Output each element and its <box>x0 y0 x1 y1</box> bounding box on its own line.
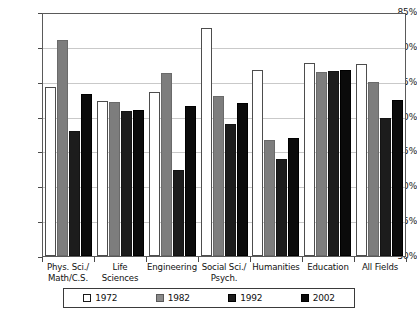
bar-group <box>250 14 302 256</box>
bar <box>97 101 108 256</box>
bar <box>276 159 287 256</box>
bar-group <box>198 14 250 256</box>
bar <box>328 71 339 256</box>
legend-label: 1982 <box>168 293 190 303</box>
x-axis-label-line2: Psych. <box>198 273 250 284</box>
x-axis-label-line1: All Fields <box>362 262 398 272</box>
legend-label: 2002 <box>313 293 335 303</box>
legend: 1972198219922002 <box>63 288 355 308</box>
bar <box>149 92 160 256</box>
legend-item[interactable]: 2002 <box>282 293 355 303</box>
bar <box>225 124 236 256</box>
bar <box>81 94 92 256</box>
bar-group <box>95 14 147 256</box>
bar-group <box>302 14 354 256</box>
x-axis-label-line2: Math/C.S. <box>42 273 94 284</box>
bar <box>213 96 224 256</box>
x-axis-label-line1: Education <box>307 262 348 272</box>
bar-group <box>146 14 198 256</box>
chart-root: 85%80%75%70%65%60%55%50% Phys. Sci./Math… <box>0 0 417 315</box>
bar <box>264 140 275 256</box>
bar <box>380 118 391 256</box>
bar-groups <box>43 14 405 256</box>
x-axis-label-line1: Humanities <box>252 262 299 272</box>
bar-group <box>43 14 95 256</box>
bar <box>252 70 263 256</box>
bar <box>288 138 299 257</box>
bar <box>201 28 212 256</box>
legend-label: 1972 <box>95 293 117 303</box>
bar-group <box>353 14 405 256</box>
bar <box>340 70 351 256</box>
legend-item[interactable]: 1982 <box>137 293 210 303</box>
legend-swatch-icon <box>156 294 164 302</box>
x-axis-label-line1: Engineering <box>147 262 197 272</box>
legend-item[interactable]: 1992 <box>209 293 282 303</box>
x-axis-label-line1: Social Sci./ <box>202 262 247 272</box>
x-axis-label: Education <box>302 262 354 284</box>
bar <box>368 82 379 256</box>
bar <box>121 111 132 256</box>
legend-swatch-icon <box>228 294 236 302</box>
x-axis-labels: Phys. Sci./Math/C.S.Life SciencesEnginee… <box>42 262 406 284</box>
bar <box>69 131 80 256</box>
bar <box>45 87 56 256</box>
x-axis-label-line1: Phys. Sci./ <box>47 262 89 272</box>
bar <box>173 170 184 256</box>
bar <box>185 106 196 256</box>
bar <box>392 100 403 256</box>
bar <box>57 40 68 256</box>
x-axis-label: Social Sci./Psych. <box>198 262 250 284</box>
legend-label: 1992 <box>240 293 262 303</box>
x-axis-label: Phys. Sci./Math/C.S. <box>42 262 94 284</box>
bar <box>304 63 315 256</box>
x-axis-label: Humanities <box>250 262 302 284</box>
x-axis-label: Engineering <box>146 262 198 284</box>
bar <box>237 103 248 256</box>
x-tick-mark <box>406 257 407 262</box>
legend-swatch-icon <box>83 294 91 302</box>
legend-swatch-icon <box>301 294 309 302</box>
x-axis-label-line1: Life Sciences <box>102 262 139 283</box>
bar <box>316 72 327 256</box>
bar <box>356 64 367 256</box>
bar <box>161 73 172 256</box>
x-axis-label: Life Sciences <box>94 262 146 284</box>
bar <box>133 110 144 256</box>
legend-item[interactable]: 1972 <box>64 293 137 303</box>
x-axis-label: All Fields <box>354 262 406 284</box>
bar <box>109 102 120 256</box>
